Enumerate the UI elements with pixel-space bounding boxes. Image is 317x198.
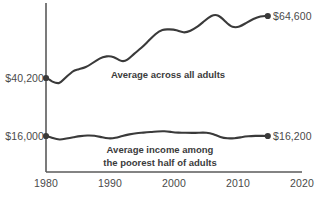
annotation-poorest-half: Average income among the poorest half of… (103, 144, 216, 169)
x-tick-2010: 2010 (226, 177, 250, 189)
value-label-top-start: $40,200 (0, 72, 44, 84)
annotation-all-adults: Average across all adults (111, 69, 225, 82)
x-tick-1980: 1980 (34, 177, 58, 189)
annotation-poorest-half-line2: the poorest half of adults (103, 157, 216, 170)
value-label-top-end: $64,600 (273, 10, 312, 22)
income-line-chart: $40,200 $16,000 $64,600 $16,200 Average … (0, 0, 317, 198)
x-tick-2000: 2000 (162, 177, 186, 189)
x-tick-2020: 2020 (290, 177, 314, 189)
datapoint-poorest-half-2014 (265, 133, 271, 139)
value-label-bottom-start: $16,000 (0, 130, 44, 142)
value-label-bottom-end: $16,200 (273, 130, 312, 142)
x-tick-1990: 1990 (98, 177, 122, 189)
datapoint-all-adults-2014 (265, 13, 271, 19)
annotation-poorest-half-line1: Average income among (103, 144, 216, 157)
series-line-poorest-half (46, 131, 268, 139)
